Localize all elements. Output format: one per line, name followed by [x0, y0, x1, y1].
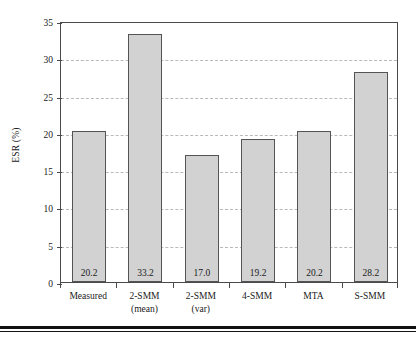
bar-value-label: 20.2 — [298, 268, 330, 278]
x-tick-mark — [173, 283, 174, 288]
x-tick-label: 2-SMM(var) — [173, 290, 229, 316]
bar[interactable]: 28.2 — [354, 72, 388, 282]
x-tick-label-line2: (var) — [173, 303, 229, 316]
bar[interactable]: 20.2 — [297, 131, 331, 282]
x-tick-label: MTA — [285, 290, 341, 303]
y-tick-label: 30 — [44, 55, 54, 65]
bar-slot: 33.2 — [117, 23, 173, 282]
x-tick-label-line1: 2-SMM — [116, 290, 172, 303]
bar-slot: 20.2 — [286, 23, 342, 282]
bar-value-label: 33.2 — [129, 268, 161, 278]
x-tick-label: Measured — [60, 290, 116, 303]
y-tick-label: 35 — [44, 18, 54, 28]
x-tick-label-line1: 4-SMM — [229, 290, 285, 303]
bar-value-label: 17.0 — [186, 268, 218, 278]
x-tick-label: S-SMM — [342, 290, 398, 303]
bar-slot: 20.2 — [61, 23, 117, 282]
x-tick-mark — [60, 283, 61, 288]
bar-value-label: 28.2 — [355, 268, 387, 278]
x-tick-label-line1: 2-SMM — [173, 290, 229, 303]
y-tick-label: 5 — [48, 242, 53, 252]
bar-series: 20.233.217.019.220.228.2 — [61, 23, 397, 282]
bar-slot: 17.0 — [174, 23, 230, 282]
bar[interactable]: 33.2 — [128, 34, 162, 282]
bar[interactable]: 17.0 — [185, 155, 219, 282]
bar-slot: 19.2 — [230, 23, 286, 282]
x-tick-label-line1: MTA — [285, 290, 341, 303]
footer-rule-thick — [0, 326, 416, 329]
x-tick-mark — [116, 283, 117, 288]
y-tick-label: 25 — [44, 93, 54, 103]
x-tick-mark — [285, 283, 286, 288]
x-tick-label: 4-SMM — [229, 290, 285, 303]
y-tick-label: 10 — [44, 204, 54, 214]
bar-value-label: 19.2 — [242, 268, 274, 278]
bar-value-label: 20.2 — [73, 268, 105, 278]
x-tick-mark — [229, 283, 230, 288]
bar[interactable]: 19.2 — [241, 139, 275, 282]
x-tick-label-line1: Measured — [60, 290, 116, 303]
y-axis-title: ESR (%) — [11, 115, 21, 175]
x-tick-label-line1: S-SMM — [342, 290, 398, 303]
y-tick-label: 15 — [44, 167, 54, 177]
figure-bar-chart-esr: ESR (%) 05101520253035 20.233.217.019.22… — [0, 0, 416, 339]
x-tick-label: 2-SMM(mean) — [116, 290, 172, 316]
footer-rule-thin — [0, 331, 416, 332]
bar[interactable]: 20.2 — [72, 131, 106, 282]
plot-area: 05101520253035 20.233.217.019.220.228.2 — [60, 22, 398, 283]
y-tick-label: 20 — [44, 130, 54, 140]
x-tick-label-line2: (mean) — [116, 303, 172, 316]
x-tick-mark — [397, 283, 398, 288]
y-tick-label: 0 — [48, 279, 53, 289]
x-tick-mark — [342, 283, 343, 288]
bar-slot: 28.2 — [343, 23, 399, 282]
